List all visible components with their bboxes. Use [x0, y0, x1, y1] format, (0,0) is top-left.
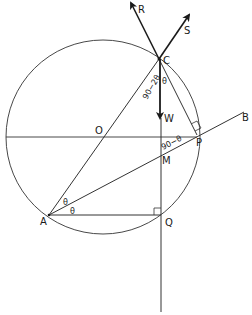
point-C-dot [158, 58, 161, 61]
angle-label-A-lower: θ [70, 207, 75, 216]
force-arrow-S [159, 15, 189, 59]
angle-label-A-upper: θ [63, 198, 68, 207]
label-Q: Q [165, 217, 173, 228]
angle-label-M: 90−θ [160, 134, 184, 152]
point-A-dot [48, 214, 51, 217]
label-O: O [95, 125, 103, 136]
angle-label-C-right: θ [162, 77, 167, 86]
angle-label-C-left: 90−2θ [141, 73, 162, 101]
force-arrow-R [131, 3, 159, 59]
label-R: R [138, 4, 145, 15]
label-B: B [242, 112, 249, 123]
label-S: S [184, 25, 190, 36]
label-M: M [162, 155, 171, 166]
right-angle-marker-Q [154, 208, 161, 215]
label-C: C [163, 55, 170, 66]
label-A: A [40, 216, 47, 227]
label-P: P [196, 137, 202, 148]
label-W: W [164, 113, 174, 124]
line-AB [49, 112, 244, 215]
force-diagram: R S C W O P B M A Q 90−2θ θ 90−θ θ θ [0, 0, 252, 315]
